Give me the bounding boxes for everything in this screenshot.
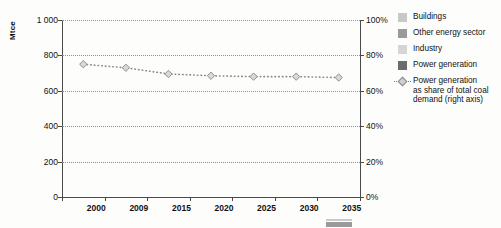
bar-segment — [326, 227, 352, 228]
x-axis-tick-mark — [147, 197, 148, 201]
legend-item[interactable]: Industry — [398, 44, 501, 54]
line-marker-diamond — [292, 73, 299, 80]
x-axis-tick-mark — [190, 197, 191, 201]
line-marker-diamond — [250, 73, 257, 80]
legend-swatch — [398, 61, 407, 70]
y-axis-right-tick-label: 20% — [366, 157, 383, 167]
y-axis-right-tick-mark — [360, 162, 364, 163]
chart-legend: BuildingsOther energy sectorIndustryPowe… — [398, 12, 501, 111]
bar-segment — [326, 221, 352, 227]
y-axis-right-tick-mark — [360, 20, 364, 21]
y-axis-tick-label: 600 — [44, 86, 58, 96]
y-axis-right-tick-label: 80% — [366, 50, 383, 60]
line-marker-diamond — [122, 64, 129, 71]
y-axis-right-tick-mark — [360, 126, 364, 127]
x-axis-line — [62, 197, 361, 198]
y-axis-right-line — [360, 20, 361, 197]
y-axis-tick-label: 1 000 — [37, 15, 58, 25]
x-axis-tick-mark — [317, 197, 318, 201]
legend-label: Other energy sector — [413, 28, 485, 38]
line-marker-diamond — [80, 61, 87, 68]
line-marker-diamond — [165, 70, 172, 77]
legend-label: Power generation as share of total coal … — [413, 76, 489, 105]
y-axis-unit-label: Mtce — [8, 11, 17, 51]
chart-container: Mtce 02004006008001 000 0%20%40%60%80%10… — [0, 0, 501, 228]
x-axis-label: 2035 — [326, 203, 378, 213]
y-axis-tick-label: 400 — [44, 121, 58, 131]
legend-label: Industry — [413, 44, 442, 54]
legend-item[interactable]: Other energy sector — [398, 28, 501, 38]
y-axis-right-tick-label: 0% — [366, 192, 378, 202]
legend-label: Buildings — [413, 12, 446, 22]
y-axis-tick-label: 200 — [44, 157, 58, 167]
x-axis-tick-mark — [232, 197, 233, 201]
y-axis-tick-label: 800 — [44, 50, 58, 60]
line-marker-diamond — [335, 74, 342, 81]
legend-item[interactable]: Power generation as share of total coal … — [398, 76, 501, 105]
x-axis-tick-mark — [62, 197, 63, 201]
legend-swatch — [398, 45, 407, 54]
y-axis-right-tick-label: 60% — [366, 86, 383, 96]
x-axis-tick-mark — [360, 197, 361, 201]
line-marker-diamond — [207, 72, 214, 79]
y-axis-tick-label: 0 — [53, 192, 58, 202]
x-axis-tick-mark — [105, 197, 106, 201]
y-axis-right-tick-label: 100% — [366, 15, 388, 25]
y-axis-right-tick-mark — [360, 55, 364, 56]
legend-item[interactable]: Buildings — [398, 12, 501, 22]
y-axis-right-tick-label: 40% — [366, 121, 383, 131]
line-series-power-generation-share — [62, 20, 360, 197]
y-axis-right-tick-mark — [360, 91, 364, 92]
x-axis-tick-mark — [275, 197, 276, 201]
legend-swatch — [398, 13, 407, 22]
bar-segment — [326, 218, 352, 222]
legend-label: Power generation — [413, 60, 477, 70]
plot-area: 02004006008001 000 0%20%40%60%80%100% 20… — [62, 20, 360, 197]
legend-item[interactable]: Power generation — [398, 60, 501, 70]
legend-line-marker-icon — [398, 77, 407, 86]
legend-swatch — [398, 29, 407, 38]
